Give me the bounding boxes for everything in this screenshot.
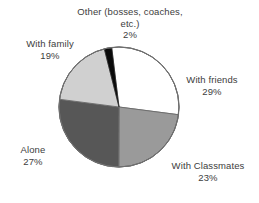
pie-label-with-classmates-value: 23%	[158, 172, 258, 184]
pie-chart: Other (bosses, coaches, etc.) 2% With fa…	[0, 0, 259, 203]
pie-label-other: Other (bosses, coaches, etc.) 2%	[72, 6, 188, 41]
wedge-with-classmates	[119, 107, 179, 167]
pie-label-with-classmates: With Classmates 23%	[158, 160, 258, 183]
pie-label-with-friends: With friends 29%	[172, 74, 252, 97]
pie-label-alone-name: Alone	[2, 144, 64, 156]
wedge-alone	[59, 99, 119, 167]
wedge-with-friends	[112, 47, 179, 115]
pie-label-with-friends-name: With friends	[172, 74, 252, 86]
pie-label-with-family-name: With family	[8, 38, 92, 50]
pie-label-with-family-value: 19%	[8, 50, 92, 62]
pie-label-with-family: With family 19%	[8, 38, 92, 61]
pie-label-with-friends-value: 29%	[172, 86, 252, 98]
pie-label-other-name: Other (bosses, coaches, etc.)	[72, 6, 188, 29]
pie-label-alone-value: 27%	[2, 156, 64, 168]
pie-label-alone: Alone 27%	[2, 144, 64, 167]
pie-label-with-classmates-name: With Classmates	[158, 160, 258, 172]
pie-wedges	[59, 47, 179, 167]
